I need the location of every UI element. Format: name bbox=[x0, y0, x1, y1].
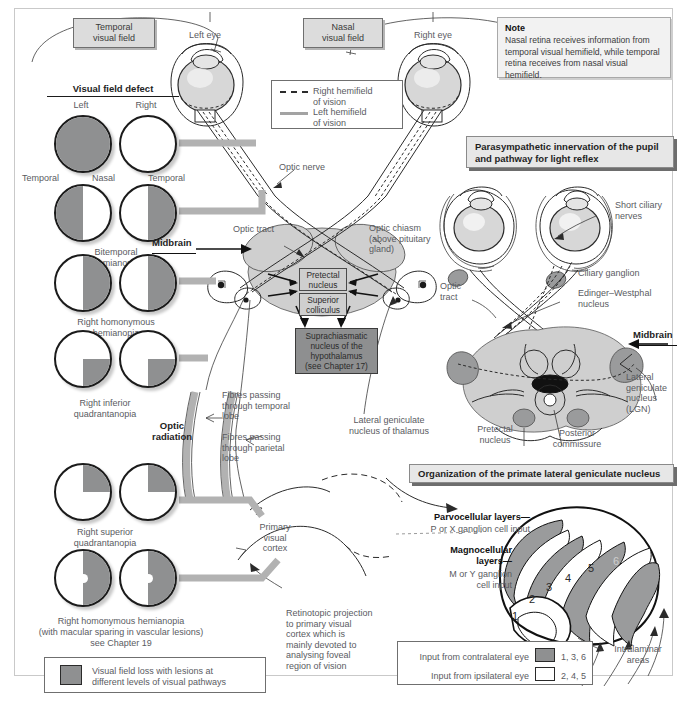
lgn-key-layers-contralateral: 1, 3, 6 bbox=[561, 652, 586, 663]
visual-field-circle-left-row1 bbox=[54, 115, 112, 173]
label-nasal-visual-field: Nasal visual field bbox=[303, 18, 383, 48]
lgn-banner: Organization of the primate lateral geni… bbox=[409, 464, 674, 483]
label-midbrain-right: Midbrain bbox=[633, 330, 673, 341]
visual-field-circle-right-row6 bbox=[119, 549, 177, 607]
pretectal-nucleus-text: Pretectal nucleus bbox=[306, 270, 339, 290]
label-short-ciliary-nerves: Short ciliary nerves bbox=[615, 200, 662, 221]
column-header-left: Left bbox=[52, 100, 110, 111]
axis-label-nasal: Nasal bbox=[92, 173, 115, 184]
dashed-key-line bbox=[280, 91, 308, 93]
label-fibres-temporal: Fibres passing through temporal lobe bbox=[222, 390, 290, 422]
lgn-banner-text: Organization of the primate lateral geni… bbox=[418, 468, 660, 480]
visual-field-defect-title: Visual field defect bbox=[40, 84, 186, 95]
midbrain-underline-right bbox=[633, 345, 677, 346]
visual-field-circle-right-row2 bbox=[119, 184, 177, 242]
solid-key-line bbox=[280, 112, 308, 115]
label-retinotopic-projection: Retinotopic projection to primary visual… bbox=[286, 608, 373, 671]
defect-fill bbox=[83, 359, 110, 386]
label-optic-radiation: Optic radiation bbox=[141, 421, 203, 442]
axis-label-temporal-right: Temporal bbox=[148, 173, 185, 184]
title-underline bbox=[47, 96, 179, 97]
parasympathetic-banner: Parasympathetic innervation of the pupil… bbox=[466, 136, 674, 168]
column-header-right: Right bbox=[117, 100, 175, 111]
defect-name-row3: Right homonymous hemianopia bbox=[38, 317, 194, 338]
visual-field-circle-left-row4 bbox=[54, 330, 112, 388]
defect-name-row6: Right homonymous hemianopia (with macula… bbox=[16, 616, 226, 649]
label-right-eye: Right eye bbox=[398, 30, 468, 41]
label-posterior-commissure: Posterior commissure bbox=[536, 428, 618, 449]
label-edinger-westphal: Edinger–Westphal nucleus bbox=[578, 288, 651, 309]
node-pretectal-nucleus: Pretectal nucleus bbox=[299, 268, 347, 291]
defect-fill bbox=[148, 256, 175, 310]
lgn-key-label-ipsilateral: Input from ipsilateral eye bbox=[403, 671, 529, 682]
label-optic-tract: Optic tract bbox=[233, 224, 274, 235]
label-magnocellular-sub: M or Y ganglion cell input bbox=[392, 569, 512, 590]
label-temporal-visual-field: Temporal visual field bbox=[73, 18, 155, 48]
label-midbrain-left: Midbrain bbox=[152, 238, 192, 249]
label-pretectal-nucleus-right: Pretectal nucleus bbox=[460, 424, 530, 445]
lgn-key-label-contralateral: Input from contralateral eye bbox=[403, 652, 529, 663]
lgn-key-layers-ipsilateral: 2, 4, 5 bbox=[561, 671, 586, 682]
defect-fill bbox=[83, 465, 110, 492]
visual-field-circle-left-row5 bbox=[54, 463, 112, 521]
lgn-layer-6: 6 bbox=[613, 556, 619, 567]
visual-field-circle-right-row1 bbox=[119, 115, 177, 173]
lgn-key-swatch-ipsilateral bbox=[535, 667, 555, 681]
lgn-layer-3: 3 bbox=[546, 582, 552, 593]
visual-field-circle-left-row3 bbox=[54, 254, 112, 312]
label-primary-visual-cortex: Primary visual cortex bbox=[244, 522, 306, 554]
lgn-layer-4: 4 bbox=[565, 573, 571, 584]
defect-legend-swatch bbox=[60, 665, 82, 685]
lgn-layer-2: 2 bbox=[529, 594, 535, 605]
lgn-key-swatch-contralateral bbox=[535, 648, 555, 662]
label-intralaminar-areas: Intralaminar areas bbox=[598, 644, 678, 665]
visual-field-circle-right-row3 bbox=[119, 254, 177, 312]
axis-label-temporal-left: Temporal bbox=[22, 173, 59, 184]
node-suprachiasmatic-nucleus: Suprachiasmatic nucleus of the hypothala… bbox=[295, 328, 378, 374]
visual-field-circle-left-row2 bbox=[54, 184, 112, 242]
label-left-eye: Left eye bbox=[170, 30, 240, 41]
left-hemifield-key-label: Left hemifield of vision bbox=[313, 107, 401, 128]
defect-fill bbox=[148, 359, 175, 386]
defect-fill bbox=[83, 256, 110, 310]
label-lgn-thalamus: Lateral geniculate nucleus of thalamus bbox=[330, 415, 448, 436]
lgn-layer-5: 5 bbox=[588, 563, 594, 574]
macular-sparing-spot bbox=[79, 574, 88, 583]
label-optic-chiasm: Optic chiasm (above pituitary gland) bbox=[369, 223, 431, 255]
note-box: Note Nasal retina receives information f… bbox=[497, 17, 671, 78]
defect-fill bbox=[56, 186, 83, 240]
label-parvocellular-sub: P or X ganglion cell input bbox=[384, 524, 530, 535]
label-optic-nerve: Optic nerve bbox=[279, 162, 325, 173]
defect-legend-text: Visual field loss with lesions at differ… bbox=[92, 666, 262, 687]
parasympathetic-banner-text: Parasympathetic innervation of the pupil… bbox=[475, 141, 659, 164]
defect-name-row5: Right superior quadrantanopia bbox=[30, 527, 180, 548]
nasal-visual-field-text: Nasal visual field bbox=[322, 22, 364, 44]
suprachiasmatic-text: Suprachiasmatic nucleus of the hypothala… bbox=[305, 331, 368, 371]
lgn-layer-1: 1 bbox=[512, 611, 518, 622]
defect-name-row4: Right inferior quadrantanopia bbox=[30, 398, 180, 419]
midbrain-underline-left bbox=[152, 253, 196, 254]
label-magnocellular: Magnocellular layers— bbox=[398, 545, 512, 566]
superior-colliculus-text: Superior colliculus bbox=[306, 295, 340, 315]
label-ciliary-ganglion: Ciliary ganglion bbox=[578, 268, 640, 279]
label-optic-tract-right: Optic tract bbox=[440, 281, 461, 302]
label-fibres-parietal: Fibres passing through parietal lobe bbox=[222, 432, 285, 464]
defect-fill bbox=[56, 117, 110, 171]
label-parvocellular: Parvocellular layers— bbox=[398, 512, 530, 523]
note-heading: Note bbox=[505, 23, 663, 34]
visual-field-circle-right-row5 bbox=[119, 463, 177, 521]
defect-fill bbox=[148, 465, 175, 492]
macular-sparing-spot bbox=[144, 574, 153, 583]
visual-field-circle-right-row4 bbox=[119, 330, 177, 388]
temporal-visual-field-text: Temporal visual field bbox=[93, 22, 135, 44]
defect-fill bbox=[148, 186, 175, 240]
note-body: Nasal retina receives information from t… bbox=[505, 35, 660, 79]
figure-plate: Temporal visual field Nasal visual field… bbox=[0, 0, 687, 715]
right-hemifield-key-label: Right hemifield of vision bbox=[313, 86, 401, 107]
label-lgn-right: Lateral geniculate nucleus (LGN) bbox=[626, 372, 667, 414]
visual-field-circle-left-row6 bbox=[54, 549, 112, 607]
node-superior-colliculus: Superior colliculus bbox=[299, 293, 347, 316]
